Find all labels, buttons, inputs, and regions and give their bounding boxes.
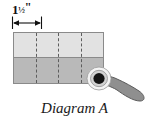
figure-caption: Diagram A <box>0 100 149 117</box>
dimension-arrow-icon <box>11 16 43 30</box>
diagram-figure: 1½" Diagram A <box>0 0 149 125</box>
dimension-unit-symbol: " <box>25 0 31 14</box>
pushpin-icon <box>84 60 149 102</box>
column-divider-2 <box>58 33 59 83</box>
dimension-label: 1½" <box>12 1 31 16</box>
column-divider-1 <box>36 33 37 83</box>
column-divider-3 <box>81 33 82 83</box>
